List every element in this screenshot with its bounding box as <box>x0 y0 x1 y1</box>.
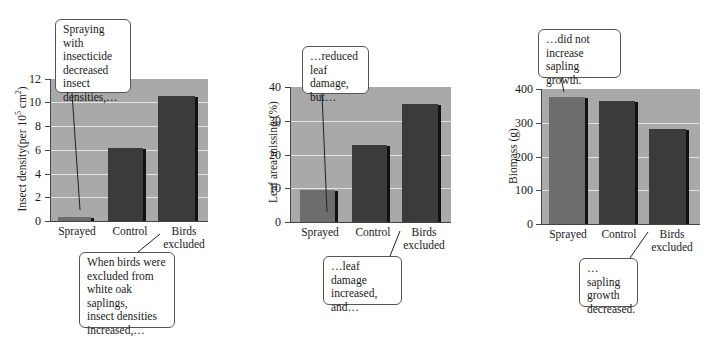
x-label-control: Control <box>348 226 398 239</box>
y-tick: 30 <box>251 115 281 127</box>
x-label-sprayed: Sprayed <box>295 226 345 239</box>
bar-control <box>108 148 146 221</box>
x-label-birds-excluded: Birdsexcluded <box>396 226 452 252</box>
x-label-control: Control <box>105 225 155 238</box>
bar-birds-excluded <box>649 129 689 224</box>
x-label-control: Control <box>594 228 644 241</box>
callout-sprayed-biomass: …did notincrease saplinggrowth. <box>538 29 621 78</box>
y-tick: 6 <box>11 144 41 156</box>
callout-sprayed-leaf: …reducedleaf damage,but… <box>302 46 369 94</box>
y-tick: 0 <box>503 218 533 230</box>
y-tick: 40 <box>251 81 281 93</box>
bar-sprayed <box>549 97 588 224</box>
plot-area <box>290 87 451 222</box>
callout-sprayed-insects: Spraying withinsecticidedecreasedinsectd… <box>55 19 131 93</box>
y-tick: 8 <box>11 120 41 132</box>
y-tick: 400 <box>503 83 533 95</box>
callout-birds-excluded-leaf: …leaf damageincreased,and… <box>323 256 402 305</box>
y-tick: 10 <box>11 96 41 108</box>
bar-control <box>352 145 390 222</box>
y-tick: 4 <box>11 168 41 180</box>
y-tick: 12 <box>11 73 41 85</box>
bar-birds-excluded <box>402 104 441 222</box>
callout-birds-excluded-insects: When birds wereexcluded fromwhite oak sa… <box>79 252 175 328</box>
bar-sprayed <box>300 190 338 222</box>
y-tick: 10 <box>251 182 281 194</box>
y-tick: 0 <box>11 215 41 227</box>
callout-birds-excluded-biomass: …saplinggrowthdecreased. <box>579 258 638 307</box>
y-tick: 200 <box>503 151 533 163</box>
bar-control <box>599 101 638 224</box>
x-label-birds-excluded: Birdsexcluded <box>644 228 700 254</box>
y-tick: 100 <box>503 184 533 196</box>
y-tick: 0 <box>251 216 281 228</box>
y-tick: 20 <box>251 149 281 161</box>
x-label-birds-excluded: Birdsexcluded <box>156 225 212 251</box>
y-tick: 300 <box>503 117 533 129</box>
bar-birds-excluded <box>158 96 198 221</box>
x-label-sprayed: Sprayed <box>52 225 102 238</box>
plot-area <box>541 89 700 224</box>
y-tick: 2 <box>11 191 41 203</box>
x-label-sprayed: Sprayed <box>543 228 593 241</box>
